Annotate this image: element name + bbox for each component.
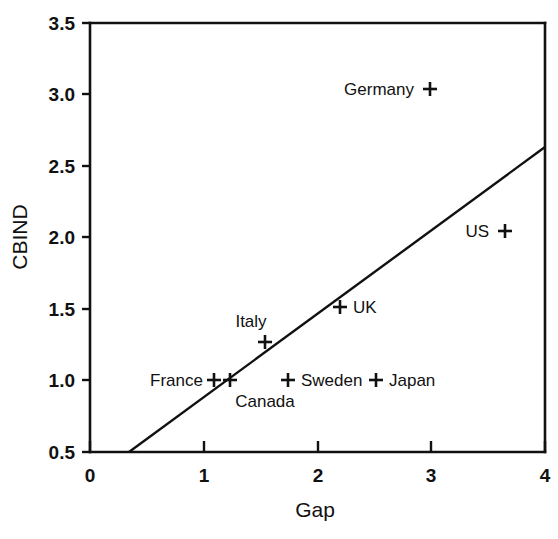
marker-canada-sweden: [281, 373, 295, 387]
regression-line: [129, 147, 545, 452]
point-label-france: France: [150, 371, 203, 390]
marker-italy: [258, 335, 272, 349]
point-label-canada: Canada: [235, 392, 295, 411]
marker-germany: [423, 82, 437, 96]
x-axis-title: Gap: [295, 498, 335, 521]
xtick-label-2: 2: [313, 465, 324, 486]
ytick-label-3-0: 3.0: [49, 84, 75, 105]
marker-japan: [369, 373, 383, 387]
xtick-label-3: 3: [426, 465, 437, 486]
plot-area: 3.5 3.0 2.5 2.0 1.5 1.0 0.5 0 1 2 3 4 Ga…: [0, 0, 558, 539]
ytick-label-2-0: 2.0: [49, 227, 75, 248]
ytick-label-1-5: 1.5: [49, 299, 76, 320]
point-label-italy: Italy: [235, 312, 267, 331]
y-axis-title: CBIND: [8, 204, 31, 269]
point-label-us: US: [465, 222, 489, 241]
point-label-germany: Germany: [344, 80, 414, 99]
ytick-label-0-5: 0.5: [49, 442, 76, 463]
xtick-label-1: 1: [199, 465, 210, 486]
xtick-label-0: 0: [85, 465, 96, 486]
ytick-label-2-5: 2.5: [49, 156, 76, 177]
ytick-label-3-5: 3.5: [49, 13, 76, 34]
point-label-japan: Japan: [389, 371, 435, 390]
point-label-sweden: Sweden: [301, 371, 362, 390]
point-label-uk: UK: [353, 298, 377, 317]
scatter-chart: 3.5 3.0 2.5 2.0 1.5 1.0 0.5 0 1 2 3 4 Ga…: [0, 0, 558, 539]
marker-us: [498, 224, 512, 238]
ytick-label-1-0: 1.0: [49, 370, 75, 391]
xtick-label-4: 4: [540, 465, 551, 486]
